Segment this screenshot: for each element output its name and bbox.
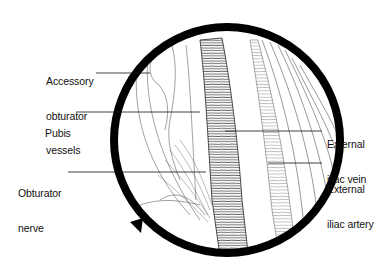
ring-pointer [130, 218, 143, 233]
label-external-iliac-artery: External iliac artery [327, 161, 374, 253]
label-line: Accessory [46, 76, 94, 88]
label-line: External [327, 184, 374, 196]
external-iliac-artery-drawing [250, 40, 296, 260]
label-line: nerve [18, 223, 61, 235]
external-iliac-vein-drawing [200, 38, 250, 270]
anatomy-diagram: Accessory obturator vessels Pubis Obtura… [0, 0, 390, 276]
label-obturator-nerve: Obturator nerve [18, 165, 61, 257]
label-line: Obturator [18, 188, 61, 200]
pubis-outline [136, 40, 205, 220]
label-pubis: Pubis [45, 105, 71, 163]
label-line: iliac artery [327, 219, 374, 231]
label-line: Pubis [45, 128, 71, 140]
label-line: External [327, 139, 366, 151]
leader-lines [68, 73, 322, 172]
